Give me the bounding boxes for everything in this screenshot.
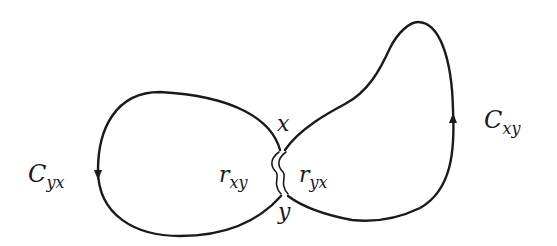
label-r-xy-sub: xy (230, 173, 249, 192)
label-c-yx-main: C (28, 160, 46, 188)
loop-diagram: x y rxy ryx Cyx Cxy (0, 0, 557, 246)
point-label-x: x (277, 111, 290, 136)
label-c-xy-main: C (484, 106, 502, 134)
label-c-xy: Cxy (484, 106, 521, 138)
label-c-yx: Cyx (28, 160, 64, 192)
label-r-xy: rxy (219, 162, 249, 192)
left-loop-curve (98, 92, 281, 236)
label-c-yx-sub: yx (45, 173, 64, 192)
wavy-arc-ryx (279, 152, 288, 194)
arrow-down-icon (94, 170, 102, 180)
label-r-yx-sub: yx (309, 173, 328, 192)
label-r-yx: ryx (299, 162, 328, 192)
point-label-y: y (277, 199, 291, 224)
arrow-up-icon (449, 113, 457, 123)
label-c-xy-sub: xy (502, 119, 521, 138)
